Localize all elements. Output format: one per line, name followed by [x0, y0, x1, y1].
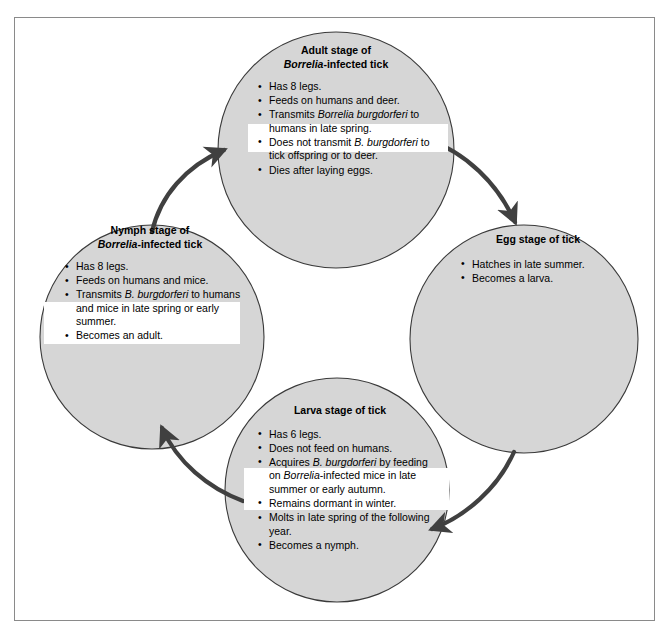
node-nymph-bullets: Has 8 legs. Feeds on humans and mice. Tr…	[64, 260, 248, 343]
node-larva-title: Larva stage of tick	[240, 404, 440, 418]
list-item: Dies after laying eggs.	[257, 164, 436, 178]
node-egg: Egg stage of tick Hatches in late summer…	[440, 233, 636, 286]
list-item: Has 8 legs.	[257, 80, 436, 94]
list-item: Acquires B. burgdorferi by feeding on Bo…	[257, 456, 440, 497]
list-item: Feeds on humans and mice.	[64, 274, 248, 288]
node-larva: Larva stage of tick Has 6 legs. Does not…	[240, 404, 440, 553]
node-adult-bullets: Has 8 legs. Feeds on humans and deer. Tr…	[257, 80, 436, 177]
list-item: Molts in late spring of the following ye…	[257, 511, 440, 538]
tick-lifecycle-diagram: Adult stage of Borrelia-infected tick Ha…	[0, 0, 669, 633]
node-nymph-title: Nymph stage of Borrelia-infected tick	[52, 224, 248, 251]
node-larva-bullets: Has 6 legs. Does not feed on humans. Acq…	[257, 428, 440, 553]
list-item: Has 8 legs.	[64, 260, 248, 274]
list-item: Has 6 legs.	[257, 428, 440, 442]
list-item: Hatches in late summer.	[460, 258, 636, 272]
list-item: Transmits Borrelia burgdorferi to humans…	[257, 108, 436, 135]
list-item: Becomes an adult.	[64, 329, 248, 343]
node-egg-bullets: Hatches in late summer. Becomes a larva.	[460, 258, 636, 286]
list-item: Does not transmit B. burgdorferi to tick…	[257, 136, 436, 163]
list-item: Remains dormant in winter.	[257, 497, 440, 511]
node-adult-title: Adult stage of Borrelia-infected tick	[236, 44, 436, 71]
list-item: Transmits B. burgdorferi to humans and m…	[64, 288, 248, 329]
list-item: Becomes a larva.	[460, 272, 636, 286]
list-item: Feeds on humans and deer.	[257, 94, 436, 108]
node-nymph: Nymph stage of Borrelia-infected tick Ha…	[52, 224, 248, 344]
node-adult: Adult stage of Borrelia-infected tick Ha…	[236, 44, 436, 178]
list-item: Becomes a nymph.	[257, 539, 440, 553]
node-egg-title: Egg stage of tick	[440, 233, 636, 247]
list-item: Does not feed on humans.	[257, 442, 440, 456]
